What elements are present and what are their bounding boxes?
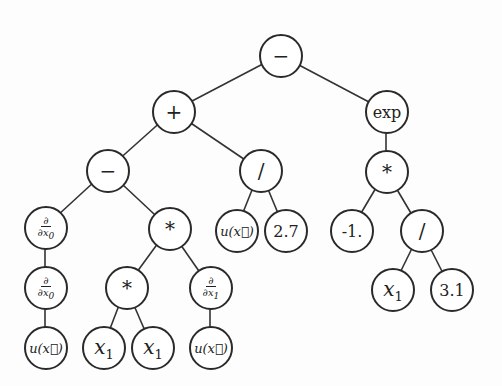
derivative-denominator: ∂x0: [38, 287, 55, 302]
node-label: x1: [94, 335, 114, 362]
tree-node-x1a: x1: [82, 326, 126, 370]
node-label: x1: [383, 277, 403, 304]
node-label: -1.: [342, 222, 363, 241]
tree-node-c31: 3.1: [430, 268, 474, 312]
node-label: ∂∂x0: [38, 275, 55, 302]
tree-node-d1: ∂∂x1: [189, 266, 233, 310]
tree-node-div2: /: [400, 209, 444, 253]
node-label: +: [166, 100, 183, 124]
node-label: exp: [373, 103, 402, 122]
tree-node-root: −: [259, 34, 303, 78]
derivative-numerator: ∂: [206, 275, 215, 287]
tree-node-d0a: ∂∂x0: [24, 206, 68, 250]
node-label: *: [382, 160, 392, 184]
tree-node-mul_r: *: [365, 150, 409, 194]
node-label: u(x⃗): [29, 341, 63, 356]
tree-node-u1: u(x⃗): [215, 209, 259, 253]
node-label: u(x⃗): [220, 224, 254, 239]
node-label: −: [100, 159, 117, 183]
node-label: /: [419, 219, 426, 243]
tree-node-x1b: x1: [131, 326, 175, 370]
tree-edges: [0, 0, 502, 386]
node-label: u(x⃗): [194, 341, 228, 356]
node-label: −: [273, 44, 290, 68]
tree-node-mul2: *: [105, 266, 149, 310]
derivative-denominator: ∂x1: [203, 287, 220, 302]
derivative-denominator: ∂x0: [38, 227, 55, 242]
tree-node-u2: u(x⃗): [24, 326, 68, 370]
derivative-numerator: ∂: [41, 275, 50, 287]
tree-node-c27: 2.7: [264, 209, 308, 253]
tree-node-u3: u(x⃗): [189, 326, 233, 370]
tree-node-exp: exp: [365, 90, 409, 134]
node-label: *: [165, 217, 175, 241]
tree-node-minus2: −: [86, 149, 130, 193]
tree-node-mul1: *: [148, 207, 192, 251]
node-label: 3.1: [439, 281, 464, 300]
node-label: ∂∂x1: [203, 275, 220, 302]
expression-tree-diagram: −+exp−/*∂∂x0*u(x⃗)2.7-1./∂∂x0*∂∂x1x13.1u…: [0, 0, 502, 386]
node-label: ∂∂x0: [38, 215, 55, 242]
node-label: *: [122, 276, 132, 300]
tree-node-d0b: ∂∂x0: [24, 266, 68, 310]
node-label: /: [258, 159, 265, 183]
tree-node-x1c: x1: [371, 268, 415, 312]
derivative-numerator: ∂: [41, 215, 50, 227]
node-label: x1: [143, 335, 163, 362]
tree-node-plus: +: [152, 90, 196, 134]
node-label: 2.7: [273, 222, 298, 241]
tree-node-cm1: -1.: [330, 209, 374, 253]
tree-node-div1: /: [239, 149, 283, 193]
